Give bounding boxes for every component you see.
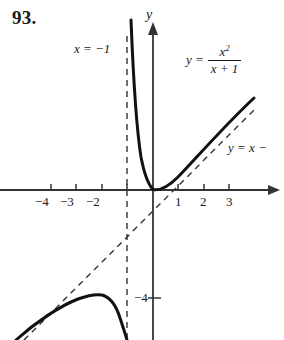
x-tick-label-2: 2 [200, 195, 207, 208]
y-tick-label-neg4: −4 [134, 291, 148, 304]
x-tick-label-neg3: −3 [60, 195, 74, 208]
graph-plot [0, 0, 284, 340]
curve-left-branch [16, 295, 127, 340]
function-label: y = x2 x + 1 [186, 44, 241, 76]
y-axis-label: y [146, 8, 152, 22]
figure-container: 93. [0, 0, 284, 340]
x-tick-label-3: 3 [226, 195, 233, 208]
fraction-denominator: x + 1 [208, 61, 242, 76]
function-label-lhs: y = [186, 53, 204, 66]
vertical-asymptote-label: x = −1 [74, 42, 110, 55]
y-axis [148, 22, 158, 340]
function-label-fraction: x2 x + 1 [208, 44, 242, 76]
numerator-exponent: 2 [225, 43, 230, 53]
x-tick-label-neg4: −4 [35, 195, 49, 208]
fraction-numerator: x2 [214, 44, 234, 60]
x-tick-label-neg2: −2 [86, 195, 100, 208]
x-tick-label-1: 1 [175, 195, 182, 208]
slant-asymptote-label: y = x − [228, 141, 267, 154]
